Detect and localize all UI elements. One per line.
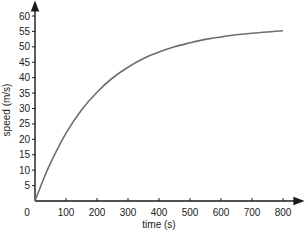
speed-time-chart: 51015202530354045505560 1002003004005006…: [0, 0, 305, 235]
y-tick-label: 50: [19, 41, 31, 52]
speed-curve: [35, 31, 283, 201]
y-tick-label: 35: [19, 88, 31, 99]
x-tick-label: 700: [244, 207, 261, 218]
y-tick-label: 5: [24, 180, 30, 191]
x-tick-label: 600: [213, 207, 230, 218]
y-tick-label: 10: [19, 165, 31, 176]
axes: [35, 6, 299, 201]
origin-label: 0: [24, 207, 30, 218]
y-tick-label: 15: [19, 149, 31, 160]
x-tick-label: 300: [120, 207, 137, 218]
x-tick-label: 100: [58, 207, 75, 218]
y-axis-label: speed (m/s): [1, 84, 12, 137]
y-tick-label: 20: [19, 134, 31, 145]
y-tick-label: 25: [19, 118, 31, 129]
x-tick-label: 400: [151, 207, 168, 218]
x-tick-label: 200: [89, 207, 106, 218]
y-tick-label: 60: [19, 11, 31, 22]
y-tick-label: 40: [19, 72, 31, 83]
x-axis-label: time (s): [142, 219, 175, 230]
x-tick-label: 800: [275, 207, 292, 218]
y-ticks: 51015202530354045505560: [19, 11, 35, 192]
x-tick-label: 500: [182, 207, 199, 218]
y-tick-label: 30: [19, 103, 31, 114]
y-tick-label: 55: [19, 26, 31, 37]
y-tick-label: 45: [19, 57, 31, 68]
